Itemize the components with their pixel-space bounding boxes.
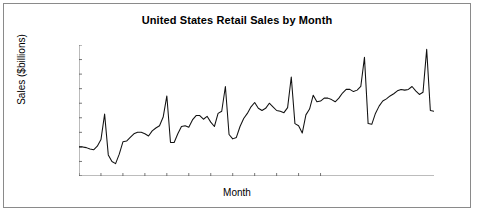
- x-axis-ticks: Jun-82Dec-82Jun-83Dec-83Jun-84Dec-84Jun-…: [79, 173, 331, 176]
- series-line-retail-sales: [79, 49, 434, 163]
- chart-title: United States Retail Sales by Month: [4, 14, 470, 26]
- x-axis-title: Month: [4, 187, 470, 198]
- chart-frame: United States Retail Sales by Month Sale…: [3, 3, 471, 208]
- plot-area: 708090100110120130140150160 Jun-82Dec-82…: [79, 45, 434, 176]
- y-axis-ticks: 708090100110120130140150160: [79, 45, 82, 176]
- line-chart-svg: 708090100110120130140150160 Jun-82Dec-82…: [79, 45, 434, 176]
- y-axis-title: Sales ($billions): [16, 20, 27, 120]
